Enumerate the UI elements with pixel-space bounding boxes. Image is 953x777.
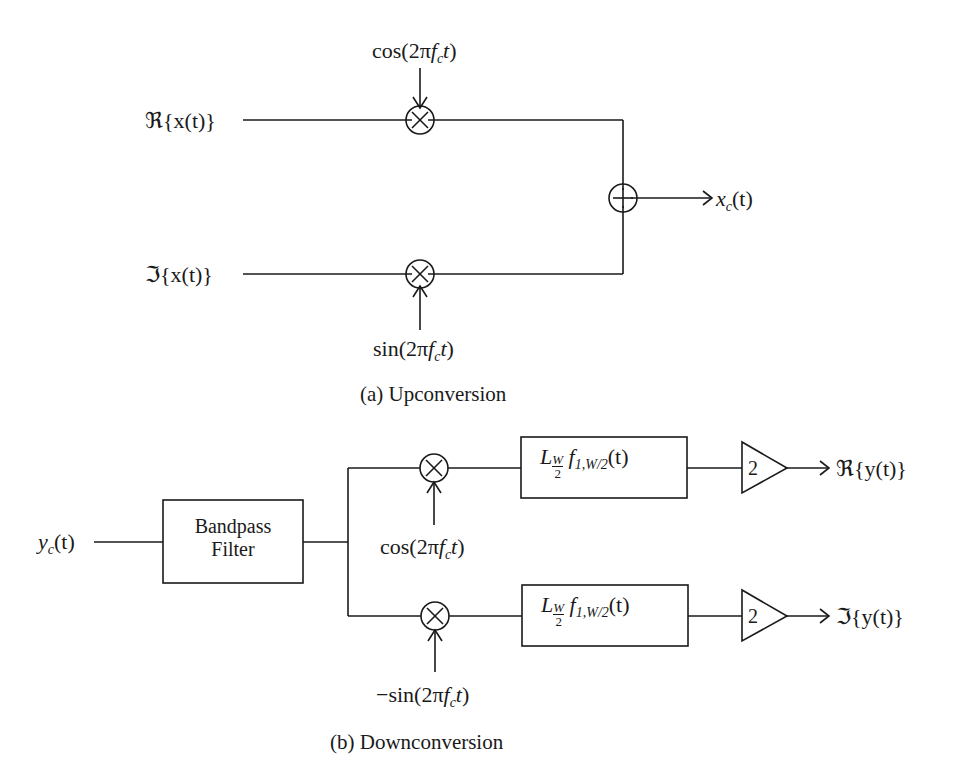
upconv-input-imag-label: ℑ{x(t)} [145,264,213,286]
downconv-input-label: yc(t) [38,531,75,557]
downconv-output-real-label: ℜ{y(t)} [836,458,907,480]
upconv-input-real-label: ℜ{x(t)} [145,110,216,132]
gain-bottom-label: 2 [748,606,758,626]
bandpass-line1: Bandpass [163,515,303,538]
upconv-carrier-sin-label: sin(2πfct) [373,338,454,364]
lowpass-filter-top-label: LW2 f1,W/2(t) [540,446,629,480]
bandpass-filter-block: Bandpass Filter [163,515,303,561]
upconv-output-label: xc(t) [716,188,753,214]
lowpass-filter-bottom-label: LW2 f1,W/2(t) [541,594,630,628]
downconv-output-imag-label: ℑ{y(t)} [836,606,904,628]
upconv-carrier-cos-label: cos(2πfct) [372,40,457,66]
upconv-caption: (a) Upconversion [360,382,506,407]
downconv-carrier-neg-sin-label: −sin(2πfct) [376,684,469,710]
downconv-caption: (b) Downconversion [330,730,503,755]
downconv-carrier-cos-label: cos(2πfct) [380,536,465,562]
gain-top-label: 2 [748,458,758,478]
bandpass-line2: Filter [163,538,303,561]
